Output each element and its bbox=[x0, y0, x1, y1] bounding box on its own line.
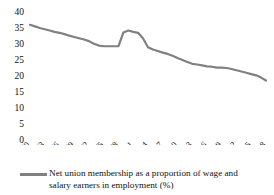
y-axis-tick-label: 35 bbox=[15, 23, 25, 33]
x-axis-tick-label: 1963 bbox=[28, 140, 46, 145]
x-axis-tick-label: 2005 bbox=[234, 140, 252, 145]
legend-label: Net union membership as a proportion of … bbox=[49, 168, 261, 191]
legend-line-swatch bbox=[20, 173, 47, 176]
y-axis-tick-label: 20 bbox=[15, 71, 25, 81]
x-axis-tick-label: 1969 bbox=[57, 140, 75, 145]
plot-svg: 0510152025303540 19601963196619691972197… bbox=[0, 0, 274, 145]
x-axis-tick-label: 2008 bbox=[249, 140, 267, 145]
x-axis-ticks: 1960196319661969197219751978198119841987… bbox=[13, 139, 267, 145]
x-axis-tick-label: 1981 bbox=[116, 140, 134, 145]
y-axis-ticks: 0510152025303540 bbox=[15, 7, 25, 145]
x-axis-tick-label: 2002 bbox=[220, 140, 238, 145]
y-axis-tick-label: 30 bbox=[15, 39, 25, 49]
x-axis-tick-label: 1987 bbox=[146, 140, 164, 145]
x-axis-tick-label: 1984 bbox=[131, 139, 150, 145]
x-axis-tick-label: 1966 bbox=[43, 140, 61, 145]
y-axis-tick-label: 5 bbox=[19, 119, 24, 129]
x-axis-tick-label: 1993 bbox=[175, 140, 193, 145]
x-axis-tick-label: 1999 bbox=[205, 140, 223, 145]
x-axis-tick-label: 1978 bbox=[102, 140, 120, 145]
x-axis-tick-label: 1972 bbox=[72, 140, 90, 145]
y-axis-tick-label: 40 bbox=[15, 7, 25, 17]
y-axis-tick-label: 25 bbox=[15, 55, 25, 65]
line-chart: 0510152025303540 19601963196619691972197… bbox=[0, 0, 274, 195]
series-line-union-density bbox=[30, 25, 266, 81]
x-axis-tick-label: 1975 bbox=[87, 140, 105, 145]
x-axis-tick-label: 1990 bbox=[161, 140, 179, 145]
x-axis-tick-label: 1996 bbox=[190, 140, 208, 145]
y-axis-tick-label: 10 bbox=[15, 103, 25, 113]
chart-legend: Net union membership as a proportion of … bbox=[0, 168, 274, 195]
legend-entry: Net union membership as a proportion of … bbox=[0, 168, 274, 191]
y-axis-tick-label: 15 bbox=[15, 87, 25, 97]
plot-area: 0510152025303540 19601963196619691972197… bbox=[0, 0, 274, 145]
